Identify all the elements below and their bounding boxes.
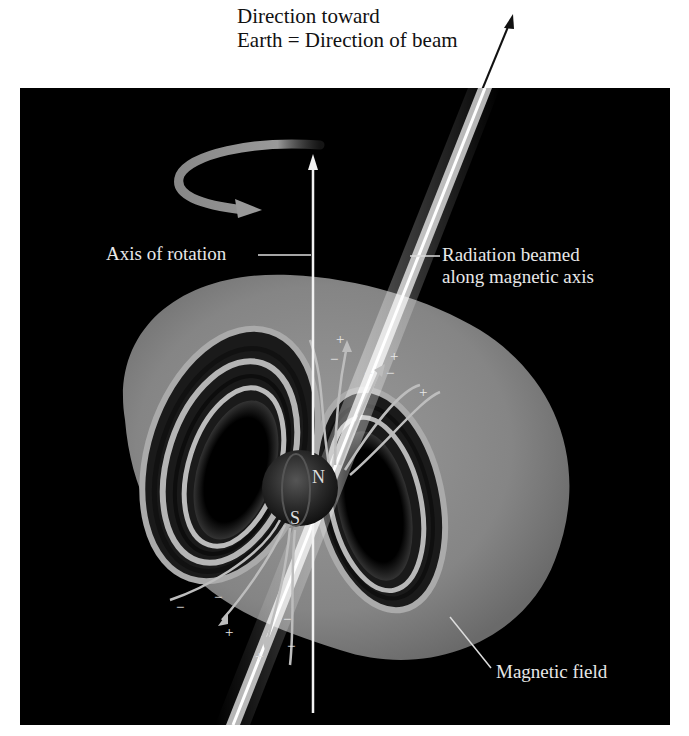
charge-plus: + — [419, 381, 427, 403]
charge-minus: − — [330, 348, 338, 370]
axis-of-rotation-label: Axis of rotation — [106, 243, 226, 265]
radiation-label-line-1: Radiation beamed — [442, 244, 580, 266]
pulsar-diagram — [0, 0, 689, 736]
north-pole-label: N — [312, 466, 325, 488]
charge-minus: − — [176, 596, 184, 618]
charge-plus: + — [336, 328, 344, 350]
radiation-label-line-2: along magnetic axis — [442, 266, 594, 288]
charge-minus: − — [386, 362, 394, 384]
charge-minus: − — [214, 586, 222, 608]
magnetic-field-label: Magnetic field — [496, 661, 607, 683]
charge-plus: + — [225, 621, 233, 643]
charge-minus: − — [283, 608, 291, 630]
charge-minus: − — [364, 362, 372, 384]
south-pole-label: S — [290, 507, 300, 529]
rotation-direction-arrow — [179, 144, 320, 218]
earth-direction-arrow — [482, 14, 514, 90]
charge-plus: + — [255, 645, 263, 667]
charge-minus: − — [287, 635, 295, 657]
